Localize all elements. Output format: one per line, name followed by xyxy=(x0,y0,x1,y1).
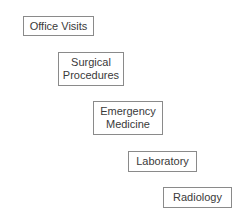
box-label: Laboratory xyxy=(136,155,189,168)
box-label: Office Visits xyxy=(30,20,88,33)
box-radiology: Radiology xyxy=(163,187,232,208)
box-surgical-procedures: Surgical Procedures xyxy=(58,52,124,86)
box-label: Emergency Medicine xyxy=(100,105,156,131)
box-laboratory: Laboratory xyxy=(128,151,197,172)
box-label: Radiology xyxy=(173,191,222,204)
box-label: Surgical Procedures xyxy=(63,56,119,82)
box-emergency-medicine: Emergency Medicine xyxy=(93,101,163,135)
box-office-visits: Office Visits xyxy=(23,16,94,36)
